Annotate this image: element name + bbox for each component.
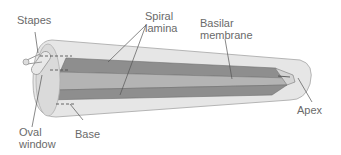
label-basilar-membrane-line2: membrane xyxy=(200,29,253,41)
label-spiral-lamina-line1: Spiral xyxy=(145,10,173,22)
label-basilar-membrane-line1: Basilar xyxy=(200,17,234,29)
leader-stapes xyxy=(35,32,38,53)
label-apex: Apex xyxy=(297,104,322,116)
label-spiral-lamina-line2: lamina xyxy=(145,22,177,34)
label-stapes: Stapes xyxy=(17,14,51,26)
label-oval-window-line2: window xyxy=(19,138,56,150)
stapes-head xyxy=(23,59,29,65)
label-oval-window-line1: Oval xyxy=(19,126,42,138)
label-base: Base xyxy=(75,128,100,140)
